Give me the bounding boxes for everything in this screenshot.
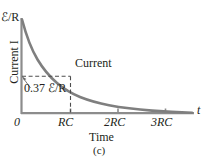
rc-discharge-current-figure: ℰ/R Current I Current 0.37 ℰ/R 0 RC 2RC … xyxy=(0,0,210,159)
x-tick-label-rc: RC xyxy=(58,116,73,128)
tau-current-value-label: 0.37 ℰ/R xyxy=(24,82,66,94)
callout-arrowhead xyxy=(22,77,26,81)
curve-label: Current xyxy=(75,57,112,69)
figure-caption: (c) xyxy=(93,145,105,156)
x-tick-label-3rc: 3RC xyxy=(151,116,172,128)
x-axis-title: Time xyxy=(89,131,114,143)
y-axis-title: Current I xyxy=(8,33,20,91)
x-tick-label-0: 0 xyxy=(14,116,20,128)
x-axis-variable-label: t xyxy=(197,104,200,116)
x-tick-label-2rc: 2RC xyxy=(104,116,125,128)
y-axis-max-label: ℰ/R xyxy=(1,11,19,23)
